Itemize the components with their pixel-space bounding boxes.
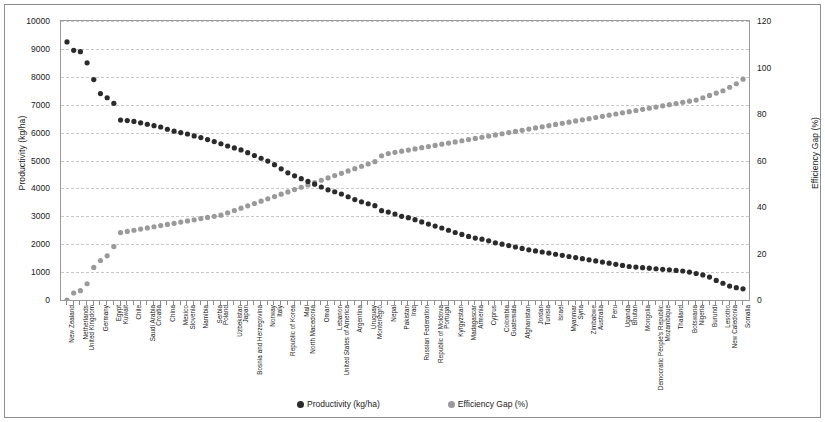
- data-point: [673, 101, 678, 106]
- x-axis-label: Kuwait: [122, 305, 129, 324]
- plot-wrapper: Productivity (kg/ha) Efficiency Gap (%) …: [0, 0, 825, 422]
- data-point: [379, 208, 384, 213]
- data-point: [573, 255, 578, 260]
- data-point: [586, 116, 591, 121]
- data-point: [566, 120, 571, 125]
- data-point: [245, 150, 250, 155]
- data-point: [546, 251, 551, 256]
- data-point: [600, 114, 605, 119]
- data-point: [520, 246, 525, 251]
- data-point: [325, 175, 330, 180]
- data-point: [627, 109, 632, 114]
- data-point: [118, 230, 123, 235]
- data-point: [667, 102, 672, 107]
- data-point: [71, 48, 76, 53]
- y-axis-right-tick-label: 0: [757, 295, 797, 305]
- data-point: [151, 224, 156, 229]
- data-point: [546, 123, 551, 128]
- data-point: [694, 97, 699, 102]
- data-point: [714, 278, 719, 283]
- legend-entry: Productivity (kg/ha): [297, 399, 380, 409]
- data-point: [727, 85, 732, 90]
- data-point: [526, 127, 531, 132]
- y-axis-right-tick-label: 80: [757, 109, 797, 119]
- data-point: [687, 99, 692, 104]
- data-point: [426, 222, 431, 227]
- data-point: [734, 81, 739, 86]
- y-axis-left-tick-label: 5000: [8, 156, 50, 166]
- x-axis-label: Mongolia: [644, 305, 651, 331]
- data-point: [466, 137, 471, 142]
- data-point: [212, 139, 217, 144]
- data-point: [232, 208, 237, 213]
- data-point: [185, 218, 190, 223]
- data-point: [553, 252, 558, 257]
- data-point: [178, 220, 183, 225]
- y-axis-left-tick-label: 7000: [8, 100, 50, 110]
- data-point: [252, 201, 257, 206]
- x-axis-label: Oman: [323, 305, 330, 322]
- data-point: [359, 164, 364, 169]
- data-point: [613, 111, 618, 116]
- x-axis-label: China: [169, 305, 176, 322]
- data-point: [660, 267, 665, 272]
- x-axis-label: Croatia: [155, 305, 162, 326]
- y-axis-right-tick-label: 40: [757, 202, 797, 212]
- x-axis-label: Afghanistan: [524, 305, 531, 339]
- x-axis-label: Iraq: [410, 305, 417, 316]
- y-axis-left-tick-label: 3000: [8, 211, 50, 221]
- data-point: [680, 100, 685, 105]
- data-point: [593, 258, 598, 263]
- x-axis-label: Peru: [611, 305, 618, 319]
- y-axis-right-tick-label: 60: [757, 156, 797, 166]
- data-point: [346, 194, 351, 199]
- data-point: [446, 228, 451, 233]
- x-axis-label: Japan: [242, 305, 249, 322]
- data-point: [694, 271, 699, 276]
- x-axis-label: North Macedonia: [309, 305, 316, 354]
- data-point: [279, 166, 284, 171]
- x-axis-label: Bosnia and Herzegovina: [256, 305, 263, 375]
- data-point: [165, 222, 170, 227]
- data-point: [660, 103, 665, 108]
- data-point: [499, 131, 504, 136]
- data-point: [131, 228, 136, 233]
- data-point: [171, 221, 176, 226]
- data-point: [158, 124, 163, 129]
- data-point: [473, 235, 478, 240]
- legend-entry: Efficiency Gap (%): [448, 399, 528, 409]
- data-point: [265, 196, 270, 201]
- data-point: [433, 143, 438, 148]
- data-point: [580, 117, 585, 122]
- data-point: [299, 185, 304, 190]
- data-point: [339, 191, 344, 196]
- data-point: [171, 129, 176, 134]
- data-point: [526, 247, 531, 252]
- data-point: [459, 138, 464, 143]
- data-point: [506, 130, 511, 135]
- y-axis-left-tick-label: 6000: [8, 128, 50, 138]
- data-point: [392, 211, 397, 216]
- x-axis-label: Namibia: [202, 305, 209, 328]
- data-point: [466, 234, 471, 239]
- data-point: [714, 90, 719, 95]
- data-point: [493, 132, 498, 137]
- data-point: [346, 168, 351, 173]
- x-axis-label: New Caledonia: [731, 305, 738, 348]
- data-point: [379, 153, 384, 158]
- data-point: [386, 210, 391, 215]
- y-axis-right-title: Efficiency Gap (%): [810, 98, 820, 208]
- y-axis-left-tick-label: 9000: [8, 44, 50, 54]
- data-point: [285, 189, 290, 194]
- x-axis-label: Syria: [577, 305, 584, 320]
- x-axis-label: New Zealand: [68, 305, 75, 343]
- data-point: [145, 122, 150, 127]
- data-point: [91, 265, 96, 270]
- data-point: [419, 145, 424, 150]
- data-point: [620, 110, 625, 115]
- data-point: [285, 170, 290, 175]
- data-point: [399, 214, 404, 219]
- y-axis-left-tick-label: 1000: [8, 267, 50, 277]
- data-point: [279, 192, 284, 197]
- data-point: [339, 171, 344, 176]
